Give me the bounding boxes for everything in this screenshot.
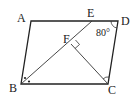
angle-arc-d <box>111 21 117 28</box>
angle-label-d: 80° <box>96 27 110 38</box>
angle-dot-b2 <box>28 80 30 82</box>
right-angle-mark-f <box>75 40 80 49</box>
label-a: A <box>17 11 26 25</box>
segment-be <box>21 21 92 84</box>
label-c: C <box>108 83 116 97</box>
angle-dot-b1 <box>24 77 26 79</box>
label-f: F <box>63 32 70 46</box>
geometry-diagram: A E D F B C 80° <box>0 0 137 110</box>
label-e: E <box>87 6 94 20</box>
label-b: B <box>9 81 17 95</box>
segment-cf <box>71 44 108 84</box>
label-d: D <box>121 14 130 28</box>
